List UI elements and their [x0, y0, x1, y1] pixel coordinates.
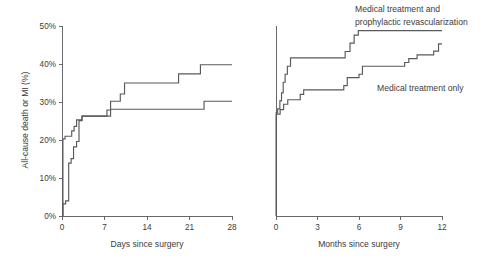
months-panel: 036912 Months since surgery: [274, 26, 447, 249]
x-tick-label-right-0: 0: [274, 223, 279, 232]
x-tick-label-right-4: 12: [437, 223, 447, 232]
x-axis-title-right: Months since surgery: [318, 239, 400, 249]
x-tick-label-left-4: 28: [227, 223, 237, 232]
x-tick-label-right-2: 6: [357, 223, 362, 232]
left-km-curves: [62, 65, 232, 216]
y-tick-label-0: 0%: [44, 212, 56, 221]
km-curve-left-0: [62, 65, 232, 216]
left-axis: [59, 26, 233, 220]
kaplan-meier-figure: 071421280%10%20%30%40%50% Days since sur…: [0, 0, 482, 269]
right-km-curves: [276, 31, 442, 216]
x-tick-label-left-2: 14: [142, 223, 152, 232]
x-tick-label-right-1: 3: [315, 223, 320, 232]
x-tick-label-left-3: 21: [185, 223, 195, 232]
x-tick-label-left-0: 0: [60, 223, 65, 232]
y-tick-label-1: 10%: [40, 174, 56, 183]
x-axis-title-left: Days since surgery: [110, 239, 184, 249]
chart-canvas: 071421280%10%20%30%40%50% Days since sur…: [0, 0, 482, 269]
days-panel: 071421280%10%20%30%40%50% Days since sur…: [20, 22, 237, 249]
y-tick-label-3: 30%: [40, 98, 56, 107]
y-axis-title: All-cause death or MI (%): [20, 71, 30, 168]
y-tick-label-2: 20%: [40, 136, 56, 145]
annotation-revascularization-line1: Medical treatment and: [355, 4, 440, 14]
annotation-revascularization-line2: prophylactic revascularization: [355, 17, 468, 27]
right-tick-labels: 036912: [274, 223, 447, 232]
km-curve-left-1: [62, 101, 232, 216]
series-annotations: Medical treatment and prophylactic revas…: [355, 4, 468, 93]
km-curve-right-1: [276, 44, 442, 216]
annotation-medical-only: Medical treatment only: [377, 83, 464, 93]
x-tick-label-right-3: 9: [398, 223, 403, 232]
y-tick-label-4: 40%: [40, 60, 56, 69]
y-tick-label-5: 50%: [40, 22, 56, 31]
x-tick-label-left-1: 7: [102, 223, 107, 232]
